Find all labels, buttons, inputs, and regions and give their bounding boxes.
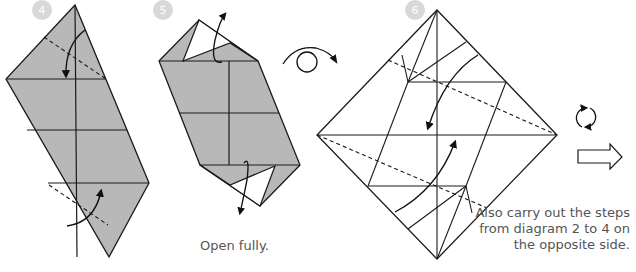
- step-number-4: 4: [39, 4, 46, 17]
- step-6-caption: Also carry out the steps from diagram 2 …: [430, 205, 630, 253]
- step-number-6: 6: [412, 4, 419, 17]
- step-number-5: 5: [160, 4, 167, 17]
- step-5-caption: Open fully.: [200, 238, 269, 254]
- step-4-diagram: 4: [6, 0, 149, 257]
- step-6-caption-line: the opposite side.: [430, 237, 630, 253]
- step-6-caption-line: Also carry out the steps: [430, 205, 630, 221]
- rotate-icon: [576, 108, 595, 127]
- next-arrow-icon: [578, 144, 622, 169]
- step-6-caption-line: from diagram 2 to 4 on: [430, 221, 630, 237]
- step-5-diagram: 5: [153, 0, 300, 213]
- turn-over-icon: [283, 48, 335, 72]
